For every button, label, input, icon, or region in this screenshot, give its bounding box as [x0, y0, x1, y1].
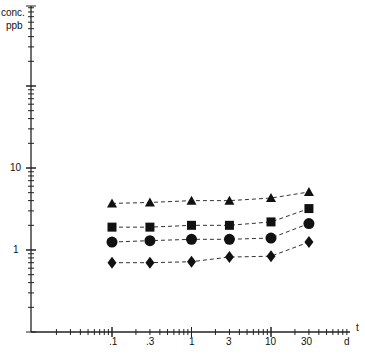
x-tick-label-1: .3 — [146, 336, 154, 347]
diamond-marker — [145, 257, 154, 269]
circle-marker — [266, 233, 277, 244]
x-tick-label-0: .1 — [109, 336, 117, 347]
diamond-marker — [108, 257, 117, 269]
diamond-marker — [187, 256, 196, 268]
circle-marker — [186, 234, 197, 245]
square-marker — [304, 204, 313, 213]
square-marker — [187, 221, 196, 230]
square-marker — [145, 223, 154, 232]
circle-marker — [303, 218, 314, 229]
x-tick-label-3: 3 — [226, 336, 232, 347]
diamond-marker — [304, 236, 313, 248]
y-axis-title-line1: conc. — [1, 7, 25, 18]
x-tick-label-4: 10 — [265, 336, 276, 347]
triangle-marker — [187, 196, 197, 205]
diamond-marker — [225, 251, 234, 263]
series-line-circle — [112, 224, 309, 242]
circle-marker — [107, 237, 118, 248]
x-tick-label-2: 1 — [189, 336, 195, 347]
diamond-marker — [267, 250, 276, 262]
series-line-triangle — [112, 192, 309, 203]
x-axis-title-t: t — [356, 322, 359, 333]
square-marker — [108, 223, 117, 232]
x-tick-label-5: 30 — [301, 336, 312, 347]
y-tick-label-1: 1 — [13, 244, 19, 255]
chart-plot — [0, 0, 365, 356]
series-line-diamond — [112, 242, 309, 263]
triangle-marker — [304, 187, 314, 196]
y-axis-title-line2: ppb — [6, 20, 23, 31]
x-axis-title-d: d — [344, 336, 350, 347]
circle-marker — [144, 235, 155, 246]
square-marker — [225, 221, 234, 230]
series-line-square — [112, 209, 309, 228]
triangle-marker — [145, 197, 155, 206]
circle-marker — [224, 234, 235, 245]
y-tick-label-10: 10 — [10, 162, 21, 173]
square-marker — [267, 217, 276, 226]
